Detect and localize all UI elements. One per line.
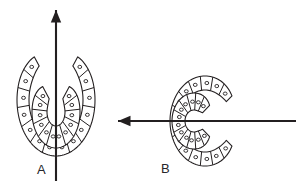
axis-arrowhead-left bbox=[118, 116, 131, 126]
axis-arrowhead-up bbox=[51, 10, 61, 23]
diagram-canvas bbox=[0, 0, 298, 187]
panel-label-a: A bbox=[37, 163, 46, 176]
panel-label-b: B bbox=[161, 162, 170, 175]
figure-root: A B bbox=[0, 0, 298, 187]
